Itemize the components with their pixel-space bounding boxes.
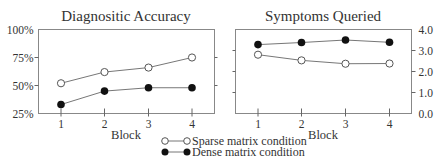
y-tick-label: 0.0: [419, 108, 434, 120]
series-line: [61, 88, 192, 105]
data-point-filled: [188, 84, 196, 92]
series-sparse: [254, 51, 393, 67]
data-point-filled: [101, 87, 109, 95]
y-axis: 0.01.02.03.04.0: [233, 24, 434, 120]
chart-title: Diagnositic Accuracy: [61, 8, 191, 24]
series-group: [254, 36, 393, 67]
x-tick-label: 3: [146, 118, 152, 130]
data-point-open: [298, 57, 305, 64]
series-dense: [254, 36, 393, 48]
chart-diagnostic-accuracy: Diagnositic Accuracy 25%50%75%100% 1234 …: [7, 8, 218, 142]
chart-symptoms-queried: Symptoms Queried 0.01.02.03.04.0 1234 Bl…: [233, 8, 434, 142]
figure: Diagnositic Accuracy 25%50%75%100% 1234 …: [0, 0, 440, 159]
series-line: [258, 40, 390, 45]
series-dense: [57, 84, 196, 108]
x-tick-label: 1: [58, 118, 64, 130]
data-point-open: [188, 54, 195, 61]
data-point-filled: [298, 39, 306, 47]
y-tick-label: 75%: [12, 52, 34, 64]
filled-circle-marker-icon: [162, 149, 169, 156]
open-circle-marker-icon: [184, 138, 191, 145]
x-tick-label: 3: [343, 118, 349, 130]
data-point-filled: [145, 84, 153, 92]
x-tick-label: 1: [255, 118, 261, 130]
plot-frame: [39, 30, 215, 114]
y-tick-label: 50%: [12, 80, 34, 92]
x-tick-label: 2: [102, 118, 108, 130]
y-tick-label: 4.0: [419, 24, 434, 36]
x-tick-label: 2: [299, 118, 305, 130]
series-group: [57, 54, 196, 108]
series-line: [61, 58, 192, 84]
y-tick-label: 1.0: [419, 87, 434, 99]
x-axis: 1234: [255, 109, 393, 130]
data-point-open: [57, 80, 64, 87]
data-point-filled: [57, 101, 65, 109]
data-point-filled: [342, 36, 350, 44]
y-tick-label: 2.0: [419, 66, 434, 78]
data-point-open: [342, 60, 349, 67]
open-circle-marker-icon: [162, 138, 169, 145]
chart-title: Symptoms Queried: [265, 8, 382, 24]
x-axis: 1234: [58, 109, 195, 130]
x-tick-label: 4: [189, 118, 195, 130]
data-point-filled: [254, 41, 262, 49]
y-tick-label: 100%: [7, 24, 34, 36]
legend: Sparse matrix condition Dense matrix con…: [162, 134, 307, 159]
x-axis-label: Block: [308, 128, 339, 142]
data-point-open: [101, 68, 108, 75]
filled-circle-marker-icon: [184, 149, 191, 156]
data-point-open: [254, 51, 261, 58]
data-point-open: [145, 64, 152, 71]
data-point-open: [386, 60, 393, 67]
series-sparse: [57, 54, 195, 87]
series-line: [258, 55, 390, 64]
data-point-filled: [386, 39, 394, 47]
legend-label: Dense matrix condition: [192, 145, 305, 159]
y-tick-label: 3.0: [419, 45, 434, 57]
legend-item-dense: Dense matrix condition: [162, 145, 305, 159]
x-axis-label: Block: [111, 128, 142, 142]
y-tick-label: 25%: [12, 108, 34, 120]
x-tick-label: 4: [387, 118, 393, 130]
